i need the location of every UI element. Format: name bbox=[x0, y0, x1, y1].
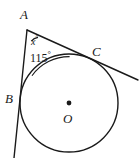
angle-x-degree-symbol: ° bbox=[35, 35, 38, 43]
vertex-label-b: B bbox=[5, 92, 13, 105]
geometry-canvas bbox=[0, 0, 140, 158]
angle-115-value: 115 bbox=[30, 51, 48, 65]
angle-label-x: x° bbox=[31, 36, 38, 47]
center-label-o: O bbox=[63, 112, 72, 125]
vertex-label-c: C bbox=[92, 45, 101, 58]
geometry-figure: A B C O x° 115° bbox=[0, 0, 140, 158]
vertex-label-a: A bbox=[20, 8, 28, 21]
angle-label-115: 115° bbox=[30, 50, 51, 64]
tangent-line-left bbox=[14, 30, 27, 158]
angle-115-degree-symbol: ° bbox=[48, 49, 51, 59]
center-dot bbox=[67, 101, 72, 106]
